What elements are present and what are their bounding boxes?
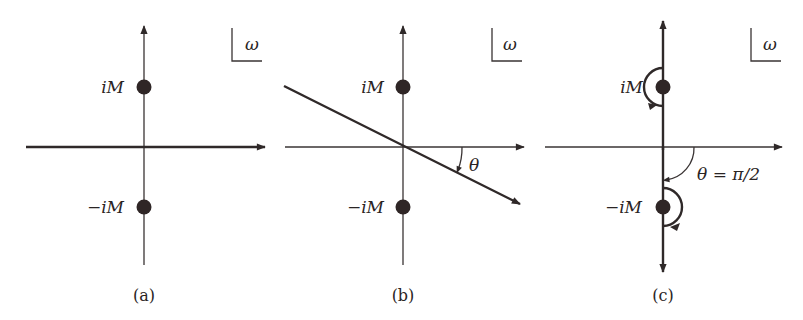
pole-upper-label: iM [620,77,643,97]
angle-arc [666,147,694,180]
angle-label: θ [469,155,479,175]
pole-lower-label: −iM [87,197,125,217]
pole-lower-label: −iM [347,197,385,217]
angle-arc [458,147,462,170]
caption-a: (a) [133,286,155,305]
pole-lower [396,200,411,215]
pole-lower [656,200,671,215]
pole-upper [656,80,671,95]
rotated-contour [284,86,520,204]
caption-b: (b) [392,286,415,305]
pole-upper-label: iM [101,77,124,97]
pole-lower-label: −iM [605,197,643,217]
panel-b: iM −iM θ ω (b) [284,26,524,305]
panel-a: iM −iM ω (a) [26,26,265,305]
pole-upper-label: iM [361,77,384,97]
contour-figure: iM −iM ω (a) iM −iM θ ω (b) iM −iM θ [0,0,803,320]
pole-upper [137,80,152,95]
caption-c: (c) [652,286,673,305]
panel-c: iM −iM θ = π/2 ω (c) [545,21,782,305]
omega-label: ω [245,34,259,54]
pole-upper [396,80,411,95]
omega-label: ω [503,34,517,54]
angle-label: θ = π/2 [697,164,760,184]
pole-lower [137,200,152,215]
omega-label: ω [763,34,777,54]
